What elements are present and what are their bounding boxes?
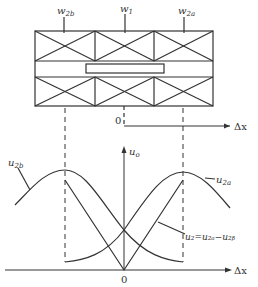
top-dx-label: Δx bbox=[234, 121, 247, 132]
label-w2a: w2a bbox=[178, 5, 195, 18]
label-w1: w1 bbox=[120, 3, 133, 16]
bottom-origin-label: 0 bbox=[121, 274, 127, 285]
bottom-dx-label: Δx bbox=[234, 265, 247, 276]
winding-w1-top bbox=[95, 31, 154, 61]
label-uo: uo bbox=[129, 146, 140, 159]
sensor-diagram: w2b w1 w2a 0 Δx uo 0 Δx u2b u2a u₂=u₂ₐ−u… bbox=[0, 0, 258, 287]
label-w2b: w2b bbox=[57, 5, 75, 18]
winding-w2b-bottom bbox=[35, 77, 95, 106]
winding-w1-bottom bbox=[95, 77, 154, 106]
winding-w2a-bottom bbox=[154, 77, 213, 106]
top-origin-label: 0 bbox=[115, 115, 121, 126]
curve-u2b bbox=[15, 170, 183, 262]
label-u2b: u2b bbox=[8, 157, 24, 170]
label-u2a: u2a bbox=[216, 174, 231, 187]
winding-w2a-top bbox=[154, 31, 213, 61]
label-u2-formula: u₂=u₂ₐ−u₂ᵦ bbox=[185, 232, 236, 242]
winding-w2b-top bbox=[35, 31, 95, 61]
armature-core bbox=[86, 64, 164, 73]
coil-frame bbox=[35, 31, 213, 106]
